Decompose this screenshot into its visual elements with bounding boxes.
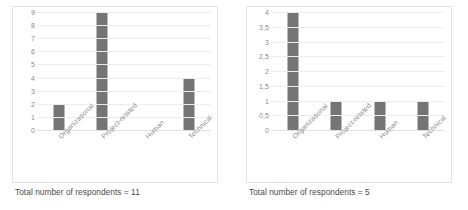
left-y-tick-label: 4 xyxy=(31,74,35,81)
left-y-tick-label: 9 xyxy=(31,9,35,16)
left-x-label-slot: Project-related xyxy=(81,133,125,183)
right-y-tick-label: 1,5 xyxy=(259,82,269,89)
left-chart-panel: 9876543210 OrganizationalProject-related… xyxy=(0,0,234,210)
right-y-tick-label: 0,5 xyxy=(259,112,269,119)
left-bar-slot xyxy=(168,12,212,130)
left-bar[interactable] xyxy=(97,12,108,130)
left-y-tick-label: 8 xyxy=(31,22,35,29)
left-x-axis-labels: OrganizationalProject-relatedHumanTechni… xyxy=(37,133,211,183)
right-y-tick-label: 2,5 xyxy=(259,53,269,60)
left-gridline xyxy=(37,25,211,26)
left-y-tick-label: 6 xyxy=(31,48,35,55)
right-chart-caption: Total number of respondents = 5 xyxy=(249,188,370,196)
left-gridline xyxy=(37,104,211,105)
right-x-label-slot: Organizational xyxy=(271,133,315,183)
right-gridline xyxy=(271,56,445,57)
right-y-tick-label: 2 xyxy=(265,68,269,75)
right-gridline xyxy=(271,27,445,28)
right-x-axis-labels: OrganizationalProject-relatedHumanTechni… xyxy=(271,133,445,183)
left-gridline xyxy=(37,78,211,79)
right-x-label-slot: Project-related xyxy=(315,133,359,183)
right-y-axis: 43,532,521,510,50 xyxy=(249,12,269,130)
right-gridline xyxy=(271,12,445,13)
right-y-tick-label: 3 xyxy=(265,38,269,45)
right-gridline xyxy=(271,101,445,102)
right-chart-panel: 43,532,521,510,50 OrganizationalProject-… xyxy=(234,0,468,210)
right-y-tick-label: 0 xyxy=(265,127,269,134)
left-chart-frame: 9876543210 OrganizationalProject-related… xyxy=(12,6,218,183)
left-chart-caption: Total number of respondents = 11 xyxy=(15,188,140,196)
left-y-tick-label: 7 xyxy=(31,35,35,42)
left-bar-slot xyxy=(37,12,81,130)
right-x-label-slot: Human xyxy=(358,133,402,183)
right-gridline xyxy=(271,71,445,72)
left-x-label-slot: Technical xyxy=(168,133,212,183)
left-y-tick-label: 2 xyxy=(31,100,35,107)
left-gridline xyxy=(37,64,211,65)
left-x-label-slot: Organizational xyxy=(37,133,81,183)
figure-row: 9876543210 OrganizationalProject-related… xyxy=(0,0,468,210)
left-y-tick-label: 3 xyxy=(31,87,35,94)
left-gridline xyxy=(37,91,211,92)
left-y-tick-label: 0 xyxy=(31,127,35,134)
left-gridline xyxy=(37,38,211,39)
left-y-tick-label: 1 xyxy=(31,113,35,120)
left-y-axis: 9876543210 xyxy=(15,12,35,130)
right-gridline xyxy=(271,86,445,87)
left-gridline xyxy=(37,12,211,13)
right-chart-frame: 43,532,521,510,50 OrganizationalProject-… xyxy=(246,6,452,183)
right-y-tick-label: 3,5 xyxy=(259,23,269,30)
left-y-tick-label: 5 xyxy=(31,61,35,68)
right-gridline xyxy=(271,42,445,43)
left-x-label-slot: Human xyxy=(124,133,168,183)
right-x-label-slot: Technical xyxy=(402,133,446,183)
left-gridline xyxy=(37,51,211,52)
right-y-tick-label: 4 xyxy=(265,9,269,16)
right-y-tick-label: 1 xyxy=(265,97,269,104)
